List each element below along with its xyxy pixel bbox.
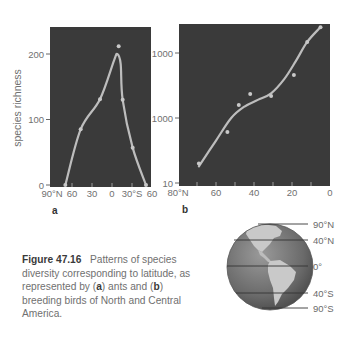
chart-a-data-point bbox=[79, 127, 83, 131]
figure-number: Figure 47.16 bbox=[22, 254, 81, 265]
chart-a-x-tick-label: 30 bbox=[87, 188, 98, 199]
figure-caption: Figure 47.16 Patterns of species diversi… bbox=[22, 253, 197, 321]
chart-b: 1010001000 80°N6040200 b bbox=[152, 24, 333, 215]
chart-b-x-tick-label: 0 bbox=[327, 187, 332, 198]
chart-a-data-point bbox=[63, 183, 67, 187]
chart-b-data-point bbox=[237, 103, 241, 107]
chart-b-data-point bbox=[225, 130, 229, 134]
chart-b-data-point bbox=[319, 25, 323, 29]
chart-a-x-tick-label: 90°N bbox=[41, 188, 62, 199]
chart-a-x-tick-label: 60 bbox=[147, 188, 158, 199]
panel-label-a: a bbox=[52, 205, 58, 216]
chart-b-data-point bbox=[269, 94, 273, 98]
chart-a-data-point bbox=[131, 146, 135, 150]
chart-b-y-tick-label: 1000 bbox=[152, 48, 173, 59]
globe-latitude-label: 40°S bbox=[313, 288, 334, 299]
globe-latitude-label: 90°S bbox=[313, 303, 334, 314]
chart-a-y-axis: 0100200 bbox=[28, 49, 50, 191]
chart-a-data-point bbox=[121, 98, 125, 102]
chart-b-x-tick-label: 80°N bbox=[167, 187, 188, 198]
chart-a: 0100200 90°N6030030°S60 species richness… bbox=[11, 27, 157, 216]
panel-label-b: b bbox=[182, 204, 188, 215]
chart-b-y-tick-label: 1000 bbox=[152, 113, 173, 124]
chart-b-data-point bbox=[292, 73, 296, 77]
chart-b-y-axis: 1010001000 bbox=[152, 48, 179, 189]
globe-illustration: 90°N40°N0°40°S90°S bbox=[227, 219, 334, 314]
chart-b-x-tick-label: 40 bbox=[249, 187, 260, 198]
chart-a-y-axis-label: species richness bbox=[11, 69, 23, 147]
globe-latitude-label: 90°N bbox=[313, 219, 334, 230]
chart-a-y-tick-label: 200 bbox=[28, 49, 44, 60]
chart-a-data-point bbox=[117, 44, 121, 48]
globe-latitude-label: 40°N bbox=[313, 235, 334, 246]
chart-a-data-point bbox=[144, 183, 148, 187]
chart-a-y-tick-label: 100 bbox=[28, 114, 44, 125]
chart-a-plot-area bbox=[50, 27, 151, 187]
chart-b-data-point bbox=[248, 92, 252, 96]
globe-latitude-label: 0° bbox=[313, 261, 322, 272]
caption-text-part: ) ants and ( bbox=[102, 281, 154, 292]
chart-a-x-tick-label: 60 bbox=[67, 188, 78, 199]
chart-a-x-tick-label: 0 bbox=[109, 188, 114, 199]
chart-a-x-tick-label: 30°S bbox=[122, 188, 143, 199]
chart-a-data-point bbox=[98, 97, 102, 101]
chart-b-data-point bbox=[197, 161, 201, 165]
chart-b-x-tick-label: 20 bbox=[287, 187, 298, 198]
chart-b-data-point bbox=[305, 40, 309, 44]
chart-b-x-tick-label: 60 bbox=[211, 187, 222, 198]
